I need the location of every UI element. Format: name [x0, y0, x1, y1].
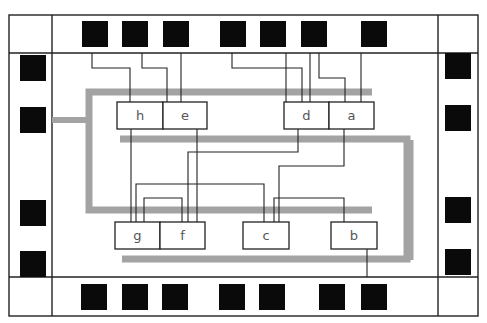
pad-top-1	[82, 21, 108, 47]
pad-bottom-3	[162, 284, 188, 310]
chip-layout-diagram: hedagfcb	[0, 0, 487, 323]
logic-cells: hedagfcb	[115, 102, 377, 249]
cell-a: a	[329, 102, 374, 129]
cell-label: b	[350, 228, 358, 243]
cell-b: b	[331, 222, 377, 249]
cell-label: f	[180, 228, 185, 243]
pad-top-2	[122, 21, 148, 47]
cell-f: f	[160, 222, 205, 249]
pad-top-5	[260, 21, 286, 47]
pad-bottom-2	[122, 284, 148, 310]
pad-right-3	[445, 197, 471, 223]
pad-top-7	[361, 21, 387, 47]
cell-e: e	[163, 102, 207, 129]
pad-top-3	[163, 21, 189, 47]
cell-g: g	[115, 222, 160, 249]
pad-right-4	[445, 249, 471, 275]
pad-left-4	[20, 251, 46, 277]
cell-label: c	[262, 228, 269, 243]
cell-label: d	[302, 108, 310, 123]
cell-label: g	[133, 228, 141, 243]
pad-right-2	[445, 105, 471, 131]
pad-bottom-5	[259, 284, 285, 310]
pad-right-1	[445, 53, 471, 79]
pad-bottom-7	[361, 284, 387, 310]
pad-top-6	[301, 21, 327, 47]
pad-bottom-1	[81, 284, 107, 310]
pad-left-1	[20, 55, 46, 81]
cell-label: h	[136, 108, 144, 123]
cell-label: e	[181, 108, 189, 123]
pad-bottom-4	[219, 284, 245, 310]
cell-label: a	[348, 108, 356, 123]
pad-top-4	[220, 21, 246, 47]
pad-left-2	[20, 107, 46, 133]
cell-c: c	[243, 222, 289, 249]
pad-bottom-6	[319, 284, 345, 310]
cell-d: d	[284, 102, 329, 129]
cell-h: h	[117, 102, 163, 129]
pad-left-3	[20, 200, 46, 226]
